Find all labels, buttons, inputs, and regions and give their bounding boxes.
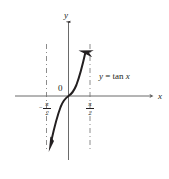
fraction-denominator: 2 [43, 110, 51, 117]
equation-equals: = [103, 71, 113, 81]
equation-variable: x [124, 71, 130, 81]
fraction-numerator: π [43, 101, 51, 108]
equation-label: y = tan x [99, 72, 130, 81]
fraction-denominator: 2 [86, 110, 94, 117]
curve-arrow-down [49, 136, 54, 152]
minus-sign: − [39, 105, 43, 112]
fraction-numerator: π [86, 101, 94, 108]
asymptote-label-negative-pi-over-2: − π 2 [43, 101, 51, 117]
asymptote-label-pi-over-2: π 2 [86, 101, 94, 117]
x-axis-label: x [158, 92, 162, 101]
tangent-function-figure: y x 0 y = tan x − π 2 π 2 [0, 0, 169, 179]
origin-label: 0 [58, 84, 63, 93]
equation-function-name: tan [113, 71, 124, 81]
y-axis-label: y [64, 11, 68, 20]
figure-canvas [0, 0, 169, 179]
